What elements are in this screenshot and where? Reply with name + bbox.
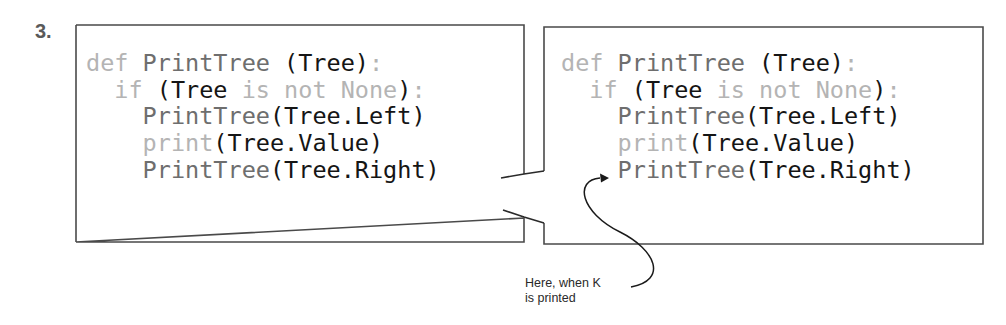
code-token: (Tree bbox=[157, 76, 242, 104]
code-token: PrintTree bbox=[143, 102, 270, 130]
code-token: is not None bbox=[242, 76, 398, 104]
code-token: def bbox=[561, 49, 618, 77]
code-line: def PrintTree (Tree): bbox=[86, 50, 440, 77]
code-line: def PrintTree (Tree): bbox=[561, 50, 915, 77]
code-token: PrintTree bbox=[143, 156, 270, 184]
code-line: print(Tree.Value) bbox=[86, 130, 440, 157]
code-token: ) bbox=[872, 76, 886, 104]
code-token: (Tree) bbox=[759, 49, 844, 77]
code-token: if bbox=[589, 76, 631, 104]
code-token: (Tree bbox=[632, 76, 717, 104]
code-token: (Tree.Right) bbox=[745, 156, 915, 184]
code-line: if (Tree is not None): bbox=[561, 77, 915, 104]
code-token: print bbox=[618, 129, 689, 157]
code-token: PrintTree bbox=[143, 49, 284, 77]
code-token: (Tree.Value) bbox=[213, 129, 383, 157]
code-line: PrintTree(Tree.Left) bbox=[86, 103, 440, 130]
code-line: PrintTree(Tree.Right) bbox=[561, 157, 915, 184]
code-line: if (Tree is not None): bbox=[86, 77, 440, 104]
code-token: print bbox=[143, 129, 214, 157]
code-token: ) bbox=[397, 76, 411, 104]
code-line: PrintTree(Tree.Left) bbox=[561, 103, 915, 130]
code-token: (Tree) bbox=[284, 49, 369, 77]
code-token: (Tree.Right) bbox=[270, 156, 440, 184]
code-line: PrintTree(Tree.Right) bbox=[86, 157, 440, 184]
code-token: : bbox=[369, 49, 383, 77]
annotation-arrow bbox=[584, 178, 653, 287]
code-line: print(Tree.Value) bbox=[561, 130, 915, 157]
code-token: (Tree.Left) bbox=[270, 102, 426, 130]
code-token: PrintTree bbox=[618, 156, 745, 184]
annotation-note: Here, when K is printed bbox=[525, 276, 601, 306]
code-token: is not None bbox=[717, 76, 873, 104]
code-panel-right: def PrintTree (Tree): if (Tree is not No… bbox=[561, 50, 915, 183]
code-token: : bbox=[886, 76, 900, 104]
connector-upper bbox=[501, 171, 544, 178]
code-token: PrintTree bbox=[618, 49, 759, 77]
annotation-line-1: Here, when K bbox=[525, 276, 601, 291]
code-token: PrintTree bbox=[618, 102, 745, 130]
code-token: : bbox=[411, 76, 425, 104]
code-panel-left: def PrintTree (Tree): if (Tree is not No… bbox=[86, 50, 440, 183]
code-token: (Tree.Left) bbox=[745, 102, 901, 130]
code-token: def bbox=[86, 49, 143, 77]
code-token: : bbox=[844, 49, 858, 77]
code-token: (Tree.Value) bbox=[688, 129, 858, 157]
annotation-line-2: is printed bbox=[525, 291, 601, 306]
code-token: if bbox=[114, 76, 156, 104]
